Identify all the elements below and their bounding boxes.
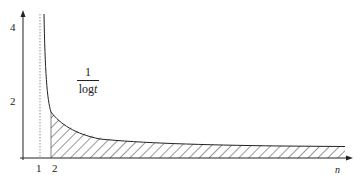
fraction-numerator: 1 xyxy=(77,66,99,81)
x-tick-1: 1 xyxy=(36,163,42,174)
shaded-area xyxy=(51,100,346,158)
log-text: log xyxy=(79,82,94,96)
plot-canvas xyxy=(0,0,360,180)
function-label: 1 logt xyxy=(77,66,99,95)
variable-t: t xyxy=(94,82,97,96)
y-axis-arrow-icon xyxy=(21,10,26,17)
x-tick-2: 2 xyxy=(52,163,58,174)
x-axis-label: n xyxy=(335,165,340,175)
x-axis-arrow-icon xyxy=(346,156,353,161)
y-tick-4: 4 xyxy=(10,22,16,33)
fraction-denominator: logt xyxy=(77,81,99,95)
integral-diagram: 4 2 1 2 n 1 logt xyxy=(0,0,360,180)
y-tick-2: 2 xyxy=(10,96,16,107)
